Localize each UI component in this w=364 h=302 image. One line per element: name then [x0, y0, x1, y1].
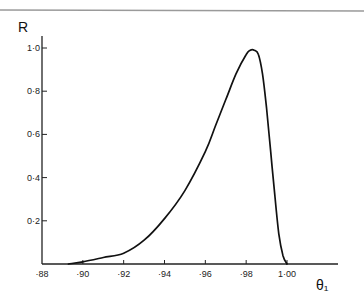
- y-tick-label: 1·0: [27, 43, 40, 53]
- x-tick-label: ·88: [35, 269, 48, 279]
- x-tick-label: ·94: [158, 269, 171, 279]
- y-tick-label: 0·8: [27, 86, 40, 96]
- x-axis-label: θ₁: [316, 277, 329, 293]
- x-tick-label: ·90: [76, 269, 89, 279]
- x-tick-label: 1·00: [278, 269, 296, 279]
- y-tick-label: 0·2: [27, 216, 40, 226]
- ticks: ·88·90·92·94·96·981·000·20·40·60·81·0: [27, 43, 296, 279]
- y-tick-label: 0·4: [27, 173, 40, 183]
- y-tick-label: 0·6: [27, 129, 40, 139]
- x-tick-label: ·92: [117, 269, 130, 279]
- top-rule: [0, 10, 364, 11]
- data-curve: [69, 50, 288, 264]
- axes: [42, 36, 338, 264]
- y-axis-label: R: [18, 19, 28, 35]
- x-tick-label: ·98: [240, 269, 253, 279]
- chart: ·88·90·92·94·96·981·000·20·40·60·81·0 R …: [0, 0, 364, 302]
- x-tick-label: ·96: [199, 269, 212, 279]
